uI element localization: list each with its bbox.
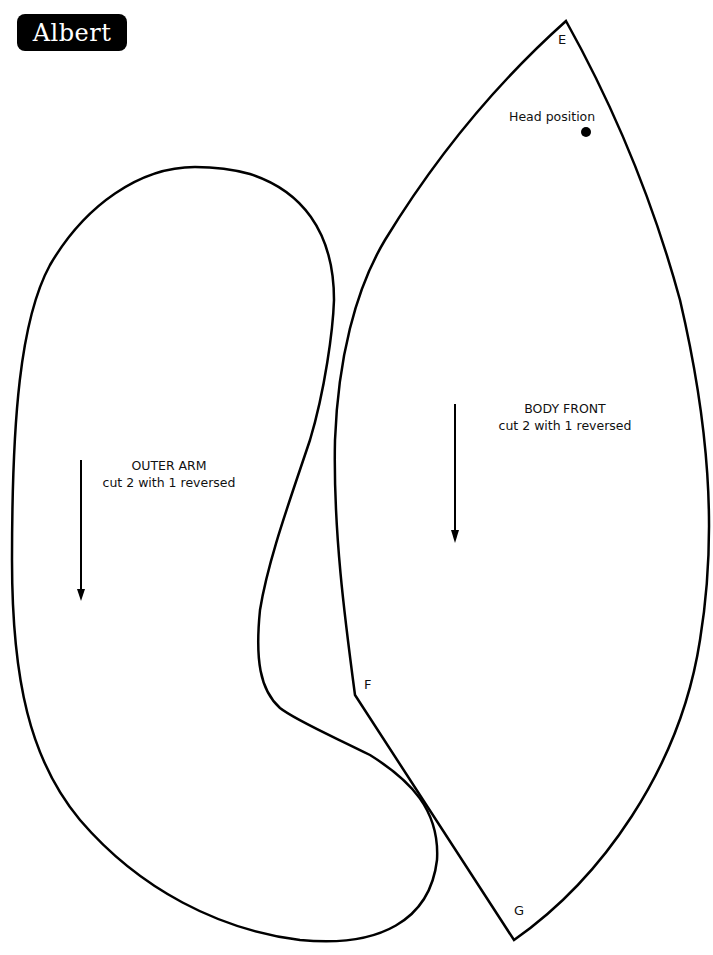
outer-arm-arrowhead-icon xyxy=(77,589,85,601)
point-f-label: F xyxy=(364,677,371,692)
outer-arm-name: OUTER ARM xyxy=(84,457,254,474)
body-front-arrowhead-icon xyxy=(451,530,459,543)
outer-arm-outline xyxy=(12,167,437,941)
outer-arm-label: OUTER ARM cut 2 with 1 reversed xyxy=(84,457,254,491)
point-e-label: E xyxy=(558,32,566,47)
body-front-name: BODY FRONT xyxy=(480,400,650,417)
body-front-outline xyxy=(335,21,709,940)
head-position-dot-icon xyxy=(581,127,591,137)
body-front-label: BODY FRONT cut 2 with 1 reversed xyxy=(480,400,650,434)
outer-arm-instruction: cut 2 with 1 reversed xyxy=(84,474,254,491)
body-front-instruction: cut 2 with 1 reversed xyxy=(480,417,650,434)
head-position-label: Head position xyxy=(509,108,595,125)
point-g-label: G xyxy=(514,903,524,918)
